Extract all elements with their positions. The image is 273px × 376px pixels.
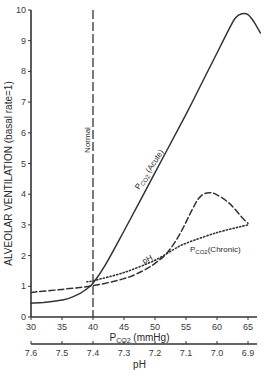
y-tick-label: 9 (21, 36, 26, 46)
y-tick-label: 2 (21, 251, 26, 261)
ph-tick-label: 7.6 (25, 348, 38, 358)
ph-tick-label: 7.4 (87, 348, 100, 358)
acute-series-label-rest: (Acute) (143, 148, 166, 177)
chronic-series-label: PCO2(Chronic) (190, 245, 241, 255)
normal-label: Normal (83, 127, 92, 153)
x-axis-title-unit: (mmHg) (131, 332, 170, 343)
x-tick-label: 35 (57, 322, 67, 332)
chronic-series-label-rest: (Chronic) (208, 245, 241, 254)
x-tick-label: 50 (150, 322, 160, 332)
y-tick-label: 5 (21, 159, 26, 169)
x-tick-label: 45 (119, 322, 129, 332)
acute-series-label: PCO2 (Acute) (133, 148, 166, 192)
y-tick-label: 1 (21, 281, 26, 291)
y-tick-label: 7 (21, 97, 26, 107)
ph-tick-label: 7.1 (180, 348, 193, 358)
reference-line-group: Normal (83, 10, 93, 317)
axes: 01234567891030354045505560657.67.57.47.3… (3, 5, 257, 370)
y-tick-label: 3 (21, 220, 26, 230)
x-tick-label: 60 (212, 322, 222, 332)
x-axis-title-sub: CO2 (116, 337, 131, 344)
ph-tick-label: 6.9 (242, 348, 255, 358)
y-tick-label: 6 (21, 128, 26, 138)
y-tick-label: 4 (21, 189, 26, 199)
chronic-series-label-sub: CO2 (195, 249, 208, 255)
ventilation-chart: 01234567891030354045505560657.67.57.47.3… (0, 0, 273, 376)
ph-series-label: pH (141, 253, 154, 266)
annotation-group: PCO2 (Acute)pHPCO2(Chronic) (133, 148, 241, 266)
x-tick-label: 30 (26, 322, 36, 332)
ph-tick-label: 7.0 (211, 348, 224, 358)
ph-tick-label: 7.5 (56, 348, 69, 358)
x-tick-label: 40 (88, 322, 98, 332)
x-tick-label: 55 (181, 322, 191, 332)
y-axis-title: ALVEOLAR VENTILATION (basal rate=1) (3, 81, 14, 265)
ph-axis-title: pH (133, 359, 146, 370)
x-axis-title: PCO2 (mmHg) (110, 332, 170, 344)
y-tick-label: 10 (16, 5, 26, 15)
y-tick-label: 0 (21, 312, 26, 322)
y-tick-label: 8 (21, 66, 26, 76)
series-line-ph (31, 193, 248, 293)
ph-tick-label: 7.2 (149, 348, 162, 358)
ph-tick-label: 7.3 (118, 348, 131, 358)
x-tick-label: 65 (243, 322, 253, 332)
